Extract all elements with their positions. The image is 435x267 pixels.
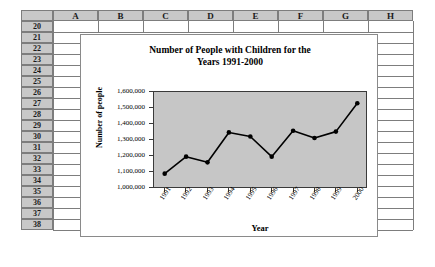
x-axis-labels: 1991 1992 1993 1994 1995 1996 1997 1998 … [153,195,373,223]
grid-hline-27 [53,109,80,110]
column-header-a[interactable]: A [53,10,98,21]
grid-hline-32-right [378,164,413,165]
grid-hline-34 [53,186,80,187]
grid-hline-37-right [378,219,413,220]
grid-vline-g [323,21,324,32]
grid-vline-a [53,21,54,230]
row-header-25[interactable]: 25 [21,76,53,87]
grid-hline-32 [53,164,80,165]
data-point [162,171,167,176]
column-header-h[interactable]: H [368,10,413,21]
row-header-28[interactable]: 28 [21,109,53,120]
grid-hline-21-right [378,43,413,44]
row-header-35[interactable]: 35 [21,186,53,197]
grid-hline-26-right [378,98,413,99]
grid-vline-c [143,21,144,32]
x-axis-title: Year [153,223,367,233]
column-header-e[interactable]: E [233,10,278,21]
grid-vline-e [233,21,234,32]
grid-hline-26 [53,98,80,99]
y-tick-label-1500000: 1,500,000 [93,104,145,111]
row-header-26[interactable]: 26 [21,87,53,98]
data-point [269,154,274,159]
grid-hline-33-right [378,175,413,176]
row-header-33[interactable]: 33 [21,164,53,175]
column-header-b[interactable]: B [98,10,143,21]
grid-hline-24-right [378,76,413,77]
grid-hline-24 [53,76,80,77]
column-header-c[interactable]: C [143,10,188,21]
grid-hline-30 [53,142,80,143]
grid-hline-21 [53,43,80,44]
y-tick-label-1400000: 1,400,000 [93,120,145,127]
row-header-23[interactable]: 23 [21,54,53,65]
row-header-38[interactable]: 38 [21,219,53,230]
row-header-31[interactable]: 31 [21,142,53,153]
y-tick-label-1000000: 1,000,000 [93,184,145,191]
corner-header[interactable] [21,10,53,21]
row-header-37[interactable]: 37 [21,208,53,219]
grid-vline-h [368,21,369,32]
chart-title-line-2: Years 1991-2000 [91,56,369,68]
data-point [184,154,189,159]
grid-hline-34-right [378,186,413,187]
row-header-22[interactable]: 22 [21,43,53,54]
grid-hline-35-right [378,197,413,198]
grid-hline-29 [53,131,80,132]
spreadsheet-canvas: A B C D E F G H 20 21 22 23 24 25 26 27 … [0,0,435,267]
grid-hline-22-right [378,54,413,55]
grid-hline-36 [53,208,80,209]
chart-title: Number of People with Children for the Y… [91,44,369,68]
row-header-34[interactable]: 34 [21,175,53,186]
grid-hline-27-right [378,109,413,110]
data-point [355,101,360,106]
grid-hline-23-right [378,65,413,66]
y-tick-label-1600000: 1,600,000 [93,88,145,95]
grid-hline-23 [53,65,80,66]
plot-area [153,91,367,188]
column-header-g[interactable]: G [323,10,368,21]
row-header-20[interactable]: 20 [21,21,53,32]
grid-vline-d [188,21,189,32]
data-point [312,136,317,141]
grid-vline-right [413,21,414,230]
data-point [248,134,253,139]
row-header-29[interactable]: 29 [21,120,53,131]
chart-title-line-1: Number of People with Children for the [91,44,369,56]
grid-hline-30-right [378,142,413,143]
grid-hline-37 [53,219,80,220]
grid-hline-20 [53,32,413,33]
data-series-line [154,92,368,189]
data-point [334,129,339,134]
row-header-32[interactable]: 32 [21,153,53,164]
column-header-d[interactable]: D [188,10,233,21]
y-tick-label-1200000: 1,200,000 [93,152,145,159]
grid-hline-25 [53,87,80,88]
row-header-27[interactable]: 27 [21,98,53,109]
row-header-30[interactable]: 30 [21,131,53,142]
y-tick-label-1100000: 1,100,000 [93,168,145,175]
data-point [227,130,232,135]
grid-hline-25-right [378,87,413,88]
chart-object[interactable]: Number of People with Children for the Y… [80,34,378,237]
grid-hline-28 [53,120,80,121]
y-tick-label-1300000: 1,300,000 [93,136,145,143]
grid-hline-29-right [378,131,413,132]
grid-vline-f [278,21,279,32]
row-header-24[interactable]: 24 [21,65,53,76]
grid-hline-31 [53,153,80,154]
grid-hline-28-right [378,120,413,121]
row-header-36[interactable]: 36 [21,197,53,208]
grid-hline-22 [53,54,80,55]
data-point [291,129,296,134]
grid-hline-31-right [378,153,413,154]
grid-hline-36-right [378,208,413,209]
y-axis-labels: 1,600,000 1,500,000 1,400,000 1,300,000 … [89,87,145,192]
column-header-f[interactable]: F [278,10,323,21]
grid-vline-b [98,21,99,32]
data-point [205,160,210,165]
row-header-21[interactable]: 21 [21,32,53,43]
grid-hline-35 [53,197,80,198]
grid-hline-33 [53,175,80,176]
